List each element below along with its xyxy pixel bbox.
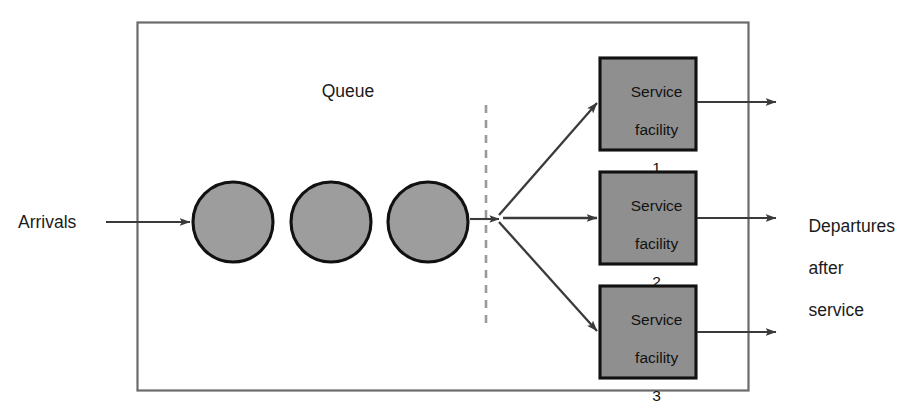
departures-line-2: after	[808, 258, 843, 278]
queue-unit-circle	[291, 182, 371, 262]
facility-3-line-1: Service	[631, 311, 683, 328]
queue-label: Queue	[303, 81, 393, 102]
departures-line-3: service	[808, 300, 863, 320]
service-facility-3-label: Service facility 3	[600, 291, 696, 414]
departures-label: Departures after service	[789, 195, 907, 342]
facility-3-line-2: facility	[635, 349, 678, 366]
facility-1-number: 1	[652, 159, 661, 176]
facility-2-number: 2	[652, 273, 661, 290]
facility-1-line-1: Service	[631, 83, 683, 100]
queue-unit-circle	[388, 182, 468, 262]
arrivals-label: Arrivals	[18, 212, 76, 233]
diagram-canvas	[0, 0, 908, 414]
facility-1-line-2: facility	[635, 121, 678, 138]
facility-3-number: 3	[652, 387, 661, 404]
queueing-system-diagram: Queue Arrivals Departures after service …	[0, 0, 908, 414]
departures-line-1: Departures	[808, 216, 895, 236]
queue-unit-circle	[193, 182, 273, 262]
facility-2-line-2: facility	[635, 235, 678, 252]
facility-2-line-1: Service	[631, 197, 683, 214]
